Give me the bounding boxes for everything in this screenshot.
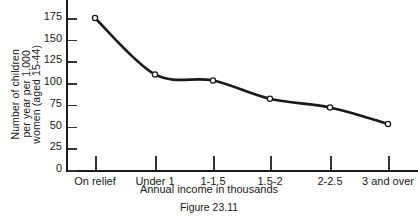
y-tick-label: 75 — [50, 98, 62, 109]
data-point-0 — [92, 15, 97, 20]
x-tick-mark-2 — [213, 156, 215, 170]
data-point-2 — [210, 78, 215, 83]
y-tick-label: 25 — [50, 141, 62, 152]
y-tick-label: 0 — [56, 163, 62, 174]
data-point-1 — [152, 72, 157, 77]
y-tick-mark — [68, 83, 77, 85]
y-tick-label: 125 — [44, 54, 62, 65]
figure-caption: Figure 23.11 — [0, 201, 418, 213]
x-axis-title: Annual income in thousands — [0, 183, 418, 195]
y-tick-mark — [68, 40, 77, 42]
y-tick-mark — [68, 170, 77, 172]
data-point-4 — [327, 105, 332, 110]
y-axis-title-line-3: women (aged 15-44) — [31, 45, 42, 144]
data-series-line — [66, 0, 418, 172]
y-tick-mark — [68, 18, 77, 20]
x-tick-mark-5 — [388, 156, 390, 170]
x-tick-mark-3 — [270, 156, 272, 170]
x-axis-line — [66, 170, 418, 172]
series-path — [95, 18, 388, 124]
y-axis-line — [66, 0, 68, 172]
y-tick-mark — [68, 148, 77, 150]
y-tick-label: 50 — [50, 120, 62, 131]
y-tick-mark — [68, 127, 77, 129]
x-tick-mark-4 — [330, 156, 332, 170]
y-tick-label: 150 — [44, 33, 62, 44]
y-tick-label: 175 — [44, 11, 62, 22]
plot-area: 0255075100125150175 On reliefUnder 11-1.… — [66, 0, 418, 172]
y-tick-label: 100 — [44, 76, 62, 87]
y-tick-mark — [68, 105, 77, 107]
figure-container: Number of children per year per 1,000 wo… — [0, 0, 418, 217]
data-point-5 — [385, 121, 390, 126]
data-point-3 — [267, 96, 272, 101]
x-tick-mark-0 — [95, 156, 97, 170]
y-tick-mark — [68, 61, 77, 63]
x-tick-mark-1 — [155, 156, 157, 170]
